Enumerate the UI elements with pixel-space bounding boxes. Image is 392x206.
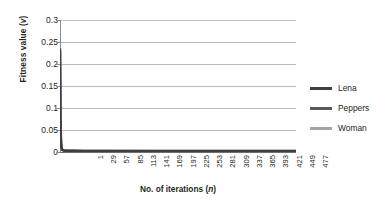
x-tick-label: 421 [296,155,304,189]
x-axis-title-main: No. of iterations ( [140,184,208,194]
x-axis-title: No. of iterations (n) [60,184,296,194]
legend-swatch-icon [310,87,332,90]
x-tick-label: 449 [309,155,317,189]
y-tick-label: 0 [0,148,58,157]
chart-figure: Fitness value (v) 0.30.250.20.150.10.050… [0,0,392,206]
y-tick-label: 0.15 [0,82,58,91]
legend-item-lena[interactable]: Lena [310,78,392,98]
y-tick-label: 0.05 [0,126,58,135]
legend-swatch-icon [310,127,332,130]
legend-label: Peppers [338,104,369,112]
x-tick-label: 477 [322,155,330,189]
y-tick-label: 0.2 [0,60,58,69]
x-axis-title-tail: ) [213,184,216,194]
legend-label: Lena [338,84,357,92]
y-tick-label: 0.3 [0,16,58,25]
legend-item-peppers[interactable]: Peppers [310,98,392,118]
y-tick-label: 0.25 [0,38,58,47]
series-line-woman [60,48,296,151]
series-layer [60,20,296,152]
series-line-peppers [60,52,296,151]
series-line-lena [60,49,296,151]
y-tick-label: 0.1 [0,104,58,113]
legend-item-woman[interactable]: Woman [310,118,392,138]
chart-legend: LenaPeppersWoman [310,78,392,138]
x-axis-line [60,152,296,153]
legend-swatch-icon [310,107,332,110]
y-axis-title-main: Fitness value ( [18,23,28,82]
legend-label: Woman [338,124,367,132]
